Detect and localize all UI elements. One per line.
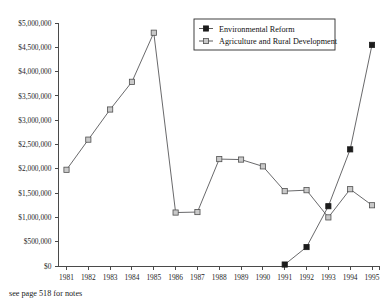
y-axis-tick-label: $2,500,000 — [18, 140, 52, 149]
data-point-marker — [195, 209, 200, 214]
x-axis-tick-label: 1983 — [103, 273, 118, 282]
data-point-marker — [369, 42, 374, 47]
data-point-marker — [151, 30, 156, 35]
chart-container: $0$500,000$1,000,000$1,500,000$2,000,000… — [0, 0, 385, 307]
data-point-marker — [348, 147, 353, 152]
x-axis-tick-label: 1982 — [81, 273, 96, 282]
data-point-marker — [86, 137, 91, 142]
y-axis-tick-label: $2,000,000 — [18, 164, 52, 173]
y-axis-tick-label: $1,500,000 — [18, 189, 52, 198]
chart-plot: $0$500,000$1,000,000$1,500,000$2,000,000… — [0, 0, 385, 307]
y-axis-tick-label: $5,000,000 — [18, 19, 52, 28]
data-point-marker — [217, 156, 222, 161]
x-axis-tick-label: 1987 — [190, 273, 205, 282]
x-axis-tick-label: 1991 — [277, 273, 292, 282]
legend-label: Environmental Reform — [219, 25, 295, 34]
chart-legend: Environmental ReformAgriculture and Rura… — [194, 19, 338, 50]
data-series-group — [64, 30, 375, 267]
data-point-marker — [129, 79, 134, 84]
x-axis-tick-label: 1985 — [146, 273, 161, 282]
y-axis-tick-label: $3,500,000 — [18, 92, 52, 101]
y-axis-tick-label: $3,000,000 — [18, 116, 52, 125]
series-line-environmental-reform — [285, 45, 372, 265]
data-point-marker — [238, 157, 243, 162]
data-point-marker — [326, 215, 331, 220]
x-axis-tick-label: 1988 — [212, 273, 227, 282]
data-point-marker — [282, 189, 287, 194]
y-axis-tick-label: $0 — [44, 262, 52, 271]
x-axis-tick-label: 1992 — [299, 273, 314, 282]
footnote-text: see page 518 for notes — [9, 289, 82, 298]
y-axis-tick-label: $4,000,000 — [18, 67, 52, 76]
legend-marker — [203, 26, 208, 31]
series-line-agriculture-and-rural-development — [67, 33, 373, 218]
x-axis-tick-label: 1990 — [256, 273, 271, 282]
data-point-marker — [304, 188, 309, 193]
data-point-marker — [326, 204, 331, 209]
data-point-marker — [369, 203, 374, 208]
y-axis: $0$500,000$1,000,000$1,500,000$2,000,000… — [18, 19, 58, 271]
data-point-marker — [64, 167, 69, 172]
x-axis-tick-label: 1989 — [234, 273, 249, 282]
data-point-marker — [348, 187, 353, 192]
y-axis-tick-label: $500,000 — [24, 237, 52, 246]
x-axis-tick-label: 1981 — [59, 273, 74, 282]
x-axis: 1981198219831984198519861987198819891990… — [59, 266, 380, 282]
legend-label: Agriculture and Rural Development — [219, 37, 338, 46]
data-point-marker — [108, 107, 113, 112]
x-axis-tick-label: 1986 — [168, 273, 183, 282]
x-axis-tick-label: 1994 — [343, 273, 358, 282]
y-axis-tick-label: $4,500,000 — [18, 43, 52, 52]
data-point-marker — [282, 262, 287, 267]
legend-marker — [203, 38, 208, 43]
data-point-marker — [173, 210, 178, 215]
data-point-marker — [304, 244, 309, 249]
data-point-marker — [260, 164, 265, 169]
x-axis-tick-label: 1984 — [125, 273, 140, 282]
x-axis-tick-label: 1993 — [321, 273, 336, 282]
x-axis-tick-label: 1995 — [365, 273, 380, 282]
y-axis-tick-label: $1,000,000 — [18, 213, 52, 222]
